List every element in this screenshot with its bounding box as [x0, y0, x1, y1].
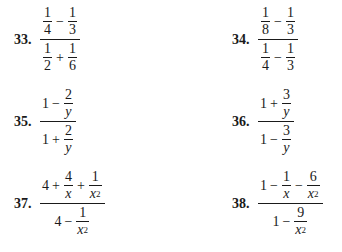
fraction-denominator: x2: [307, 186, 320, 201]
denominator: 12 + 16: [40, 40, 80, 73]
fraction: 2y: [64, 88, 73, 119]
fraction-numerator: 1: [91, 170, 100, 185]
operator: −: [274, 14, 282, 30]
fraction-numerator: 3: [282, 124, 291, 139]
problem-34: 34. 18 − 13 14 − 13: [232, 6, 298, 73]
fraction: 6x2: [307, 170, 320, 201]
fraction-denominator: y: [64, 140, 72, 155]
denominator: 1 − 3y: [258, 122, 294, 155]
fraction-denominator: 4: [43, 22, 52, 37]
fraction-denominator: 3: [286, 22, 295, 37]
fraction-denominator: y: [282, 104, 290, 119]
term: 1: [260, 133, 267, 147]
fraction-denominator: x2: [76, 222, 89, 237]
numerator: 1 + 3y: [258, 88, 294, 121]
operator: +: [270, 96, 278, 112]
fraction: 12: [43, 42, 52, 73]
operator: −: [274, 50, 282, 66]
problem-number: 34.: [232, 32, 258, 48]
numerator: 18 − 13: [258, 6, 298, 39]
fraction-denominator: 3: [286, 58, 295, 73]
problem-number: 33.: [14, 32, 40, 48]
denominator: 1 − 9x2: [270, 204, 310, 237]
complex-fraction: 4 + 4x + 1x2 4 − 1x2: [40, 170, 105, 237]
operator: −: [56, 14, 64, 30]
fraction: 9x2: [294, 206, 307, 237]
denominator: 4 − 1x2: [52, 204, 92, 237]
fraction: 3y: [282, 88, 291, 119]
fraction-denominator: 4: [261, 58, 270, 73]
fraction-numerator: 1: [282, 170, 291, 185]
operator: −: [270, 178, 278, 194]
fraction: 13: [286, 6, 295, 37]
operator: −: [270, 132, 278, 148]
fraction-numerator: 1: [43, 42, 52, 57]
fraction-denominator: 8: [261, 22, 270, 37]
problem-37: 37. 4 + 4x + 1x2 4 − 1x2: [14, 170, 105, 237]
variable: x: [77, 223, 83, 237]
fraction: 13: [68, 6, 77, 37]
fraction-numerator: 9: [296, 206, 305, 221]
problem-number: 35.: [14, 114, 40, 130]
fraction: 14: [261, 42, 270, 73]
operator: +: [52, 178, 60, 194]
operator: −: [64, 214, 72, 230]
problem-number: 38.: [232, 196, 258, 212]
numerator: 1 − 1x − 6x2: [258, 170, 323, 203]
fraction-denominator: 6: [68, 58, 77, 73]
fraction-numerator: 1: [261, 6, 270, 21]
operator: +: [56, 50, 64, 66]
complex-fraction: 1 − 1x − 6x2 1 − 9x2: [258, 170, 323, 237]
variable: x: [295, 223, 301, 237]
fraction-numerator: 1: [68, 42, 77, 57]
operator: −: [282, 214, 290, 230]
operator: +: [52, 132, 60, 148]
problem-35: 35. 1 − 2y 1 + 2y: [14, 88, 76, 155]
fraction-denominator: x: [64, 186, 72, 201]
problem-36: 36. 1 + 3y 1 − 3y: [232, 88, 294, 155]
term: 1: [260, 179, 267, 193]
fraction-denominator: x2: [89, 186, 102, 201]
fraction-numerator: 1: [286, 42, 295, 57]
problem-33: 33. 14 − 13 12 + 16: [14, 6, 80, 73]
fraction-numerator: 4: [64, 170, 73, 185]
fraction-denominator: x: [282, 186, 290, 201]
fraction-numerator: 2: [64, 88, 73, 103]
fraction: 3y: [282, 124, 291, 155]
problem-38: 38. 1 − 1x − 6x2 1 − 9x2: [232, 170, 323, 237]
term: 1: [42, 97, 49, 111]
fraction: 4x: [64, 170, 73, 201]
fraction-denominator: y: [282, 140, 290, 155]
fraction: 18: [261, 6, 270, 37]
fraction: 1x2: [76, 206, 89, 237]
complex-fraction: 14 − 13 12 + 16: [40, 6, 80, 73]
numerator: 14 − 13: [40, 6, 80, 39]
term: 4: [54, 215, 61, 229]
numerator: 1 − 2y: [40, 88, 76, 121]
fraction-denominator: y: [64, 104, 72, 119]
numerator: 4 + 4x + 1x2: [40, 170, 105, 203]
fraction: 1x2: [89, 170, 102, 201]
fraction-numerator: 6: [309, 170, 318, 185]
operator: −: [295, 178, 303, 194]
fraction-numerator: 3: [282, 88, 291, 103]
fraction-numerator: 1: [286, 6, 295, 21]
complex-fraction: 18 − 13 14 − 13: [258, 6, 298, 73]
term: 1: [272, 215, 279, 229]
operator: +: [77, 178, 85, 194]
fraction-denominator: x2: [294, 222, 307, 237]
fraction-numerator: 1: [78, 206, 87, 221]
fraction: 13: [286, 42, 295, 73]
problem-number: 36.: [232, 114, 258, 130]
fraction-denominator: 2: [43, 58, 52, 73]
fraction-numerator: 1: [68, 6, 77, 21]
complex-fraction: 1 + 3y 1 − 3y: [258, 88, 294, 155]
complex-fraction: 1 − 2y 1 + 2y: [40, 88, 76, 155]
problem-number: 37.: [14, 196, 40, 212]
operator: −: [52, 96, 60, 112]
fraction: 14: [43, 6, 52, 37]
fraction-numerator: 1: [43, 6, 52, 21]
fraction-denominator: 3: [68, 22, 77, 37]
fraction-numerator: 1: [261, 42, 270, 57]
term: 4: [42, 179, 49, 193]
